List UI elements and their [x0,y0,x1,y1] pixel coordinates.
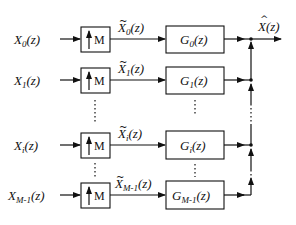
filter-bank-diagram: X0(z) M X0(z) ~ G0(z) X1(z) M X1(z) ~ G1… [0,0,296,225]
tilde-m-1: ~ [116,171,124,182]
filter-label-i: Gi(z) [180,138,206,155]
filter-label-1: G1(z) [180,73,208,90]
junction-dot-i [249,143,253,147]
upsampler-label-0: M [94,33,105,47]
input-label-0: X0(z) [13,32,40,49]
input-label-i: Xi(z) [13,138,38,155]
upsampler-label-1: M [94,74,105,88]
tilde-i: ~ [119,121,127,132]
tilde-0: ~ [119,15,127,26]
input-label-1: X1(z) [13,73,40,90]
input-label-m-1: XM-1(z) [7,188,45,205]
branch-row-m-1: XM-1(z) M XM-1(z) ~ GM-1(z) [7,171,251,209]
upsampler-label-m-1: M [94,189,105,203]
branch-row-0: X0(z) M X0(z) ~ G0(z) [13,15,244,53]
output-hat: ^ [260,13,268,24]
junction-dot-1 [249,78,253,82]
branch-row-i: Xi(z) M Xi(z) ~ Gi(z) [13,121,244,159]
tilde-1: ~ [119,56,127,67]
branch-row-1: X1(z) M X1(z) ~ G1(z) [13,56,244,94]
upsampler-label-i: M [94,139,105,153]
filter-label-0: G0(z) [180,32,208,49]
summing-bus: X(z) ^ [244,13,281,195]
